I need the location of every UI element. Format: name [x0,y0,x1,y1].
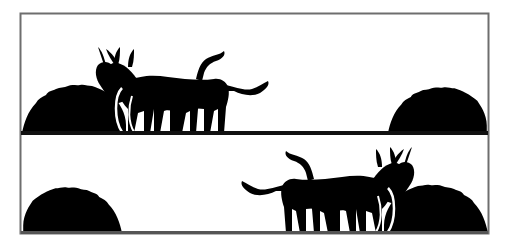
bottom-ground-line [21,231,488,234]
two-panel-illustration [0,0,510,252]
illustration-canvas [0,0,510,252]
panel-divider [21,131,488,135]
